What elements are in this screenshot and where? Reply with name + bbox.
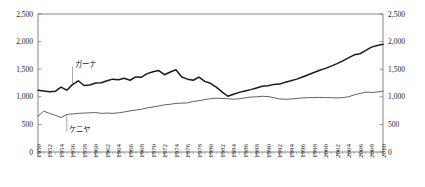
x-axis-label: 1974: [173, 144, 181, 159]
series-annotation-ガーナ: ガーナ: [75, 59, 96, 69]
x-axis-label: 1954: [58, 144, 66, 159]
series-line-ガーナ: [38, 44, 383, 96]
x-axis-label: 1968: [138, 144, 146, 159]
x-axis-label: 1996: [299, 144, 307, 159]
x-axis-label: 1956: [69, 144, 77, 159]
x-axis-label: 1950: [35, 144, 43, 159]
y-axis-label-right: 1,000: [388, 92, 405, 101]
y-axis-label-left: 2,500: [16, 10, 33, 19]
x-axis-label: 1970: [150, 144, 158, 159]
x-axis-label: 1988: [253, 144, 261, 159]
x-axis-label: 1966: [127, 144, 135, 159]
chart-container: 005005001,0001,0001,5001,5002,0002,0002,…: [0, 0, 425, 187]
x-axis-label: 1964: [115, 144, 123, 159]
x-axis-label: 1962: [104, 144, 112, 159]
x-axis-label: 1958: [81, 144, 89, 159]
x-axis-label: 1980: [207, 144, 215, 159]
x-axis-label: 2006: [357, 144, 365, 159]
y-axis-label-right: 2,000: [388, 37, 405, 46]
x-axis-label: 2008: [368, 144, 376, 159]
y-axis-label-left: 1,000: [16, 92, 33, 101]
y-axis-label-left: 2,000: [16, 37, 33, 46]
x-axis-label: 2004: [345, 144, 353, 159]
x-axis-label: 1998: [311, 144, 319, 159]
x-axis-label: 1986: [242, 144, 250, 159]
x-axis-label: 1978: [196, 144, 204, 159]
y-axis-label-right: 1,500: [388, 65, 405, 74]
x-axis-label: 1992: [276, 144, 284, 159]
y-axis-label-right: 500: [388, 120, 400, 129]
x-axis-label: 2002: [334, 144, 342, 159]
x-axis-label: 1952: [46, 144, 54, 159]
y-axis-label-right: 2,500: [388, 10, 405, 19]
x-axis-label: 1994: [288, 144, 296, 159]
x-axis-label: 1960: [92, 144, 100, 159]
y-axis-label-left: 0: [29, 148, 33, 157]
x-axis-label: 1976: [184, 144, 192, 159]
y-axis-label-right: 0: [388, 148, 392, 157]
series-line-ケニヤ: [38, 91, 383, 118]
y-axis-label-left: 500: [22, 120, 34, 129]
x-axis-label: 1990: [265, 144, 273, 159]
line-chart: 005005001,0001,0001,5001,5002,0002,0002,…: [0, 0, 425, 187]
y-axis-label-left: 1,500: [16, 65, 33, 74]
x-axis-label: 1972: [161, 144, 169, 159]
x-axis-label: 2010: [380, 144, 388, 159]
x-axis-label: 2000: [322, 144, 330, 159]
series-annotation-ケニヤ: ケニヤ: [69, 125, 90, 134]
x-axis-label: 1982: [219, 144, 227, 159]
x-axis-label: 1984: [230, 144, 238, 159]
